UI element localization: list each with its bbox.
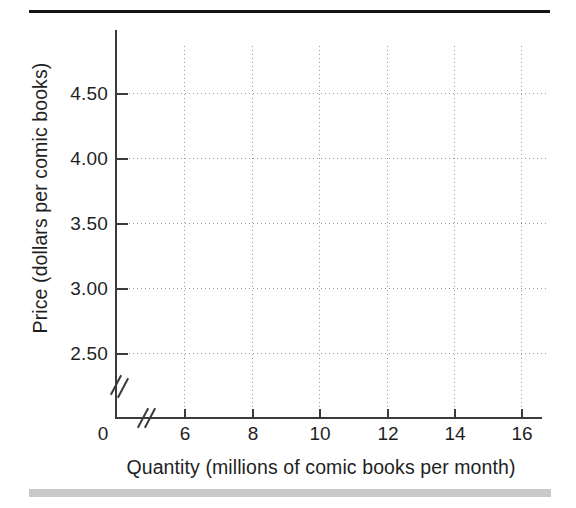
y-tick-4.00 <box>117 158 128 160</box>
y-tick-3.00 <box>117 288 128 290</box>
gridline-y-4.00 <box>117 158 548 159</box>
x-tick-label-0: 0 <box>83 424 123 443</box>
gridline-x-8 <box>252 46 253 417</box>
x-tick-8 <box>252 409 254 418</box>
gridline-y-4.50 <box>117 93 548 94</box>
gridline-y-2.50 <box>117 353 548 354</box>
y-tick-4.50 <box>117 93 128 95</box>
x-tick-6 <box>184 409 186 418</box>
x-tick-label-14: 14 <box>435 424 475 443</box>
x-axis-break-icon <box>136 405 162 431</box>
x-tick-10 <box>319 409 321 418</box>
x-tick-label-10: 10 <box>300 424 340 443</box>
x-axis-title: Quantity (millions of comic books per mo… <box>88 455 554 479</box>
x-tick-label-8: 8 <box>233 424 273 443</box>
figure: 4.50 4.00 3.50 3.00 2.50 0 6 8 10 12 14 … <box>0 0 576 508</box>
gridline-y-3.50 <box>117 223 548 224</box>
gridline-x-10 <box>319 46 320 417</box>
x-tick-12 <box>387 409 389 418</box>
gridline-x-14 <box>454 46 455 417</box>
x-tick-label-12: 12 <box>368 424 408 443</box>
x-tick-16 <box>521 409 523 418</box>
x-tick-label-16: 16 <box>502 424 542 443</box>
x-axis-line <box>115 417 542 419</box>
gridline-y-3.00 <box>117 288 548 289</box>
chart-plot-area: 4.50 4.00 3.50 3.00 2.50 0 6 8 10 12 14 … <box>0 0 576 508</box>
y-axis-title-wrapper: Price (dollars per comic books) <box>27 18 53 378</box>
x-tick-14 <box>454 409 456 418</box>
y-tick-3.50 <box>117 223 128 225</box>
y-axis-break-icon <box>107 374 129 404</box>
gridline-x-6 <box>184 46 185 417</box>
x-tick-label-6: 6 <box>165 424 205 443</box>
bottom-rule-divider <box>29 489 551 497</box>
y-tick-2.50 <box>117 353 128 355</box>
y-axis-title: Price (dollars per comic books) <box>27 18 53 378</box>
gridline-x-16 <box>521 46 522 417</box>
gridline-x-12 <box>387 46 388 417</box>
